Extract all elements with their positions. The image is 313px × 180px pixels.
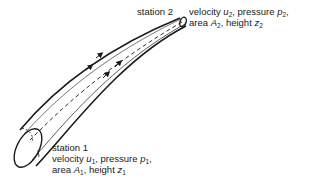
station1-title: station 1	[52, 142, 88, 153]
flow-arrow-icon	[115, 62, 120, 67]
streamline-lower	[32, 24, 185, 160]
station2-line1: velocity u2, pressure p2,	[189, 6, 289, 17]
flow-arrow-icon	[96, 54, 101, 58]
station2-line2: area A2, height z2	[189, 17, 263, 28]
flow-arrow-icon	[103, 73, 108, 78]
station2-title: station 2	[137, 6, 173, 17]
streamline-upper	[24, 19, 181, 134]
station1-line2: area A1, height z1	[52, 164, 126, 175]
station1-cross-section	[8, 124, 47, 171]
stream-tube-diagram	[0, 0, 313, 180]
station1-line1: velocity u1, pressure p1,	[52, 153, 152, 164]
